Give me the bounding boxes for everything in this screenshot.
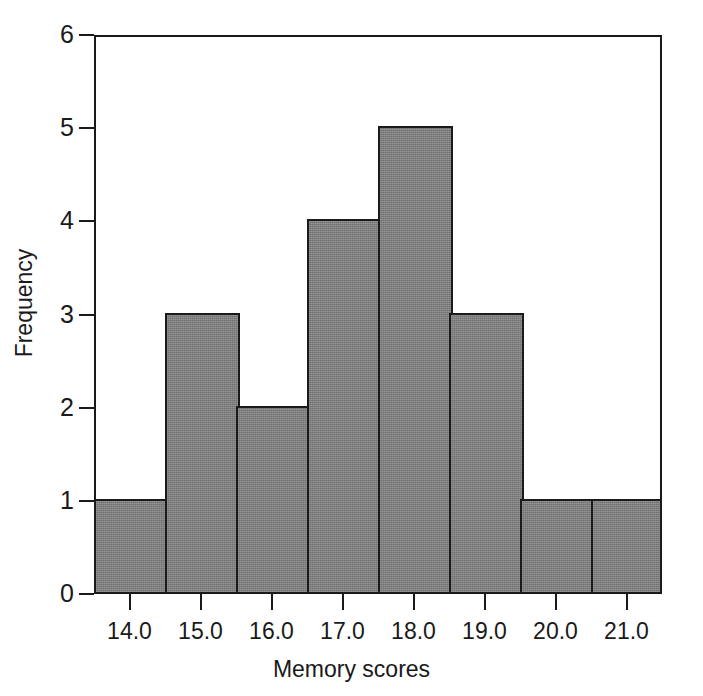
histogram-figure: 0123456 Frequency 14.015.016.017.018.019…: [0, 0, 703, 696]
histogram-bar: [378, 126, 453, 592]
histogram-bar: [307, 219, 382, 592]
x-axis-tick-label: 21.0: [582, 618, 672, 644]
y-axis-tick: [79, 314, 94, 316]
y-axis-tick: [79, 127, 94, 129]
histogram-bar: [94, 499, 169, 592]
x-axis-tick: [413, 594, 415, 610]
histogram-bar: [165, 313, 240, 593]
y-axis-tick-label: 5: [28, 115, 74, 140]
y-axis-tick-label: 6: [28, 22, 74, 47]
y-axis-tick: [79, 220, 94, 222]
x-axis-title: Memory scores: [0, 656, 703, 682]
y-axis-title: Frequency: [11, 213, 37, 393]
x-axis-tick: [271, 594, 273, 610]
y-axis-tick: [79, 500, 94, 502]
y-axis-tick: [79, 407, 94, 409]
histogram-bar: [591, 499, 662, 592]
y-axis-tick-label: 2: [28, 395, 74, 420]
histogram-bar: [520, 499, 595, 592]
x-axis-tick: [484, 594, 486, 610]
x-axis-tick: [555, 594, 557, 610]
histogram-bar: [449, 313, 524, 593]
y-axis-tick-label: 1: [28, 488, 74, 513]
x-axis-tick: [200, 594, 202, 610]
x-axis-tick: [626, 594, 628, 610]
y-axis-tick-label: 0: [28, 581, 74, 606]
y-axis-tick: [79, 34, 94, 36]
y-axis-tick: [79, 593, 94, 595]
plot-area: [94, 35, 662, 594]
x-axis-tick: [342, 594, 344, 610]
x-axis-tick: [129, 594, 131, 610]
histogram-bar: [236, 406, 311, 592]
